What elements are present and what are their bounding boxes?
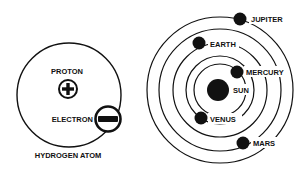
planet-label-jupiter: JUPITER — [251, 15, 283, 24]
planet-label-mars: MARS — [253, 139, 275, 148]
sun-label: SUN — [233, 86, 249, 95]
mars-planet-icon — [237, 137, 250, 150]
solar-system: SUN MERCURY VENUS EARTH MARS JUPITER — [147, 13, 293, 164]
venus-planet-icon — [195, 112, 208, 125]
electron-label: ELECTRON — [52, 115, 93, 124]
diagram-canvas: PROTON ELECTRON HYDROGEN ATOM SUN MERCUR… — [0, 0, 305, 176]
hydrogen-atom-title: HYDROGEN ATOM — [35, 151, 102, 160]
planet-label-mercury: MERCURY — [246, 68, 284, 77]
planet-label-earth: EARTH — [210, 40, 236, 49]
jupiter-planet-icon — [234, 13, 247, 26]
proton-plus-icon — [59, 80, 77, 98]
sun-icon — [207, 79, 229, 101]
planet-label-venus: VENUS — [210, 115, 236, 124]
mercury-planet-icon — [231, 66, 244, 79]
hydrogen-atom: PROTON ELECTRON HYDROGEN ATOM — [17, 43, 121, 160]
electron-minus-icon — [96, 107, 121, 132]
earth-planet-icon — [193, 37, 206, 50]
proton-label: PROTON — [51, 67, 83, 76]
